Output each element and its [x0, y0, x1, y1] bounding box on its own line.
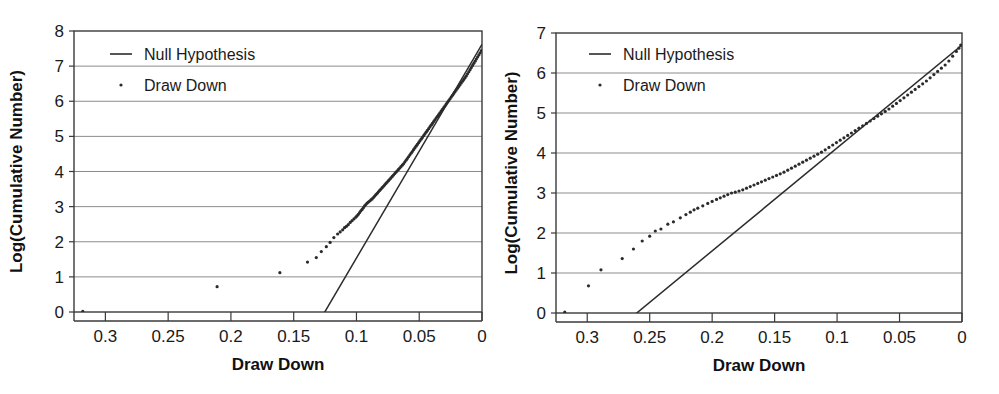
- draw-down-point: [801, 161, 804, 164]
- draw-down-point: [779, 172, 782, 175]
- draw-down-point: [715, 198, 718, 201]
- y-tick-label: 7: [537, 24, 546, 43]
- draw-down-point: [955, 50, 958, 53]
- draw-down-point: [329, 241, 332, 244]
- legend-marker-dot: [119, 83, 122, 86]
- draw-down-point: [666, 223, 669, 226]
- legend-label: Draw Down: [144, 77, 227, 94]
- draw-down-point: [936, 70, 939, 73]
- draw-down-point: [684, 213, 687, 216]
- x-tick-label: 0.3: [575, 328, 599, 347]
- x-tick-label: 0.05: [403, 327, 436, 346]
- x-tick-label: 0: [957, 328, 966, 347]
- draw-down-point: [641, 239, 644, 242]
- draw-down-point: [599, 268, 602, 271]
- x-tick-label: 0: [477, 327, 486, 346]
- draw-down-point: [835, 141, 838, 144]
- draw-down-point: [884, 110, 887, 113]
- draw-down-point: [839, 139, 842, 142]
- draw-down-point: [831, 143, 834, 146]
- draw-down-point: [925, 79, 928, 82]
- y-tick-label: 3: [55, 198, 64, 217]
- y-axis-title: Log(Cumulative Number): [7, 70, 26, 273]
- y-tick-label: 0: [55, 303, 64, 322]
- legend: Null HypothesisDraw Down: [110, 46, 255, 94]
- draw-down-point: [689, 211, 692, 214]
- draw-down-point: [325, 245, 328, 248]
- draw-down-point: [846, 134, 849, 137]
- draw-down-point: [701, 204, 704, 207]
- draw-down-point: [940, 67, 943, 70]
- series-group: [81, 44, 483, 324]
- draw-down-point: [336, 232, 339, 235]
- draw-down-point: [278, 271, 281, 274]
- legend-label: Null Hypothesis: [144, 46, 255, 63]
- y-axis-title: Log(Cumulative Number): [502, 71, 521, 274]
- draw-down-point: [706, 202, 709, 205]
- plot-frame: [556, 33, 962, 313]
- draw-down-point: [929, 76, 932, 79]
- draw-down-point: [824, 148, 827, 151]
- left-panel: 0.30.250.20.150.10.050012345678Draw Down…: [0, 0, 499, 394]
- draw-down-point: [719, 196, 722, 199]
- draw-down-point: [809, 157, 812, 160]
- draw-down-point: [906, 93, 909, 96]
- draw-down-point: [951, 55, 954, 58]
- y-tick-label: 4: [55, 163, 64, 182]
- draw-down-point: [944, 63, 947, 66]
- draw-down-point: [306, 261, 309, 264]
- draw-down-point: [932, 73, 935, 76]
- draw-down-point: [760, 180, 763, 183]
- draw-down-point: [812, 155, 815, 158]
- draw-down-point: [797, 163, 800, 166]
- y-tick-label: 6: [55, 92, 64, 111]
- draw-down-point: [957, 47, 960, 50]
- draw-down-point: [917, 85, 920, 88]
- right-panel: 0.30.250.20.150.10.05001234567Draw DownL…: [499, 0, 999, 394]
- y-tick-label: 7: [55, 57, 64, 76]
- y-tick-label: 8: [55, 22, 64, 41]
- draw-down-point: [857, 127, 860, 130]
- draw-down-point: [726, 193, 729, 196]
- draw-down-point: [899, 99, 902, 102]
- draw-down-point: [711, 200, 714, 203]
- x-tick-label: 0.2: [700, 328, 724, 347]
- x-tick-label: 0.3: [94, 327, 118, 346]
- draw-down-point: [320, 250, 323, 253]
- y-tick-label: 2: [537, 224, 546, 243]
- draw-down-point: [794, 165, 797, 168]
- draw-down-point: [895, 102, 898, 105]
- draw-down-point: [880, 112, 883, 115]
- y-tick-label: 5: [537, 104, 546, 123]
- draw-down-point: [756, 182, 759, 185]
- draw-down-point: [587, 284, 590, 287]
- draw-down-point: [827, 146, 830, 149]
- draw-down-point: [767, 177, 770, 180]
- draw-down-point: [648, 235, 651, 238]
- y-tick-label: 5: [55, 127, 64, 146]
- y-tick-label: 0: [537, 304, 546, 323]
- draw-down-point: [842, 136, 845, 139]
- draw-down-point: [315, 256, 318, 259]
- draw-down-point: [679, 216, 682, 219]
- draw-down-point: [621, 257, 624, 260]
- y-tick-label: 2: [55, 233, 64, 252]
- draw-down-point: [745, 187, 748, 190]
- draw-down-point: [654, 229, 657, 232]
- draw-down-point: [672, 220, 675, 223]
- draw-down-point: [734, 191, 737, 194]
- legend-label: Draw Down: [623, 77, 706, 94]
- draw-down-point: [332, 236, 335, 239]
- draw-down-point: [854, 129, 857, 132]
- y-tick-label: 6: [537, 64, 546, 83]
- draw-down-point: [947, 59, 950, 62]
- draw-down-point: [216, 285, 219, 288]
- draw-down-point: [749, 185, 752, 188]
- x-tick-label: 0.1: [825, 328, 849, 347]
- draw-down-point: [921, 82, 924, 85]
- draw-down-point: [869, 119, 872, 122]
- draw-down-point: [692, 208, 695, 211]
- draw-down-point: [959, 43, 962, 46]
- right-chart-svg: 0.30.250.20.150.10.05001234567Draw DownL…: [499, 0, 999, 394]
- draw-down-point: [872, 117, 875, 120]
